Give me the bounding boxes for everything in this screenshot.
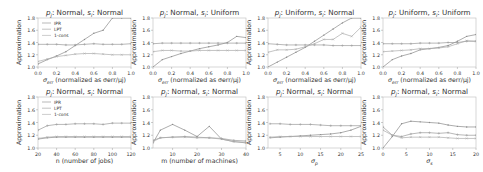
x-tick-label: 20 <box>473 152 479 157</box>
x-axis-label: σs <box>426 157 433 166</box>
x-tick-label: 5 <box>405 152 408 157</box>
chart-title: pj: Normal, si: Normal <box>390 87 468 98</box>
y-tick-label: 1.2 <box>372 133 380 138</box>
x-tick-label: 0 <box>381 152 384 157</box>
y-tick-label: 1.4 <box>372 121 380 126</box>
y-axis-label: Approximation <box>360 100 368 145</box>
chart-grid: pj: Normal, si: Normal1.01.21.41.61.8App… <box>0 0 483 172</box>
y-tick-label: 1.6 <box>372 108 380 113</box>
x-tick-label: 15 <box>450 152 456 157</box>
x-tick-label: 10 <box>426 152 432 157</box>
chart-panel-8: pj: Normal, si: Normal1.01.21.41.61.8App… <box>0 0 483 172</box>
y-tick-label: 1.0 <box>372 146 380 151</box>
y-tick-label: 1.8 <box>372 95 380 100</box>
